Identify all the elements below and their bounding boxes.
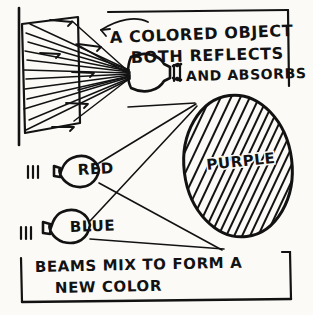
title-line-2: BOTH REFLECTS xyxy=(131,44,284,67)
caption-line-2: NEW COLOR xyxy=(55,277,162,297)
title-line-3: AND ABSORBS xyxy=(186,65,307,84)
blue-lamp-base xyxy=(21,227,31,239)
diagram-canvas: A COLORED OBJECT BOTH REFLECTS AND ABSOR… xyxy=(0,0,313,315)
hand-drawn-sketch: A COLORED OBJECT BOTH REFLECTS AND ABSOR… xyxy=(0,0,313,315)
caption-line-1: BEAMS MIX TO FORM A xyxy=(35,254,243,276)
title-line-1: A COLORED OBJECT xyxy=(109,21,293,47)
red-label: RED xyxy=(77,159,114,179)
red-lamp-base xyxy=(28,166,38,178)
purple-ellipse: PURPLE xyxy=(150,56,313,280)
direction-arrows xyxy=(40,20,101,131)
